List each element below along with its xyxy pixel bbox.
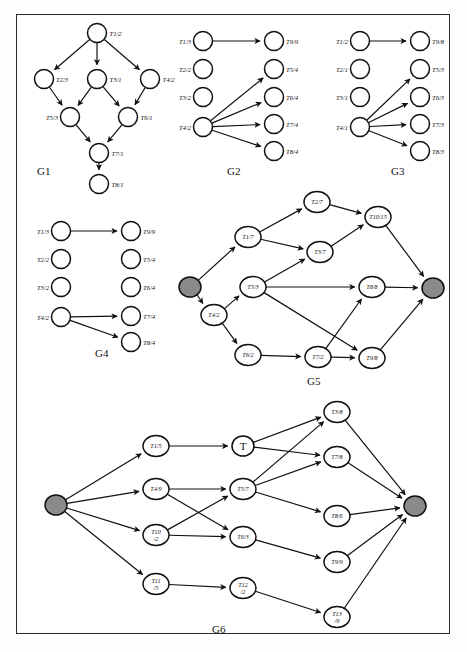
node-label: T7/3 [432,121,445,128]
node-label: T [240,440,247,452]
node-label: T8/8 [366,283,378,290]
graph-edge [350,508,400,515]
node-label: T7/8 [331,453,343,460]
terminal-node-g6 [45,495,67,515]
caption-g5: G5 [307,375,321,387]
node-label: T2/2 [37,256,50,263]
terminal-node-g6 [404,496,426,516]
node-label: T1/7 [242,233,254,240]
node-label: T1/3 [37,228,50,235]
graph-edge [65,512,143,575]
graph-edge [345,420,405,494]
graph-edge [256,540,321,558]
node-label: T6/4 [286,94,299,101]
graph-edge [264,259,304,282]
task-node-g4-T74 [122,307,141,326]
graph-edge [369,131,407,146]
node-label: T2/2 [179,66,192,73]
node-label: T3/8 [331,408,343,415]
graph-edge [67,491,139,503]
graph-edge [211,78,264,121]
node-label: T5/3 [46,114,59,121]
node-label: T6/2 [242,351,253,358]
graph-edge [386,226,424,277]
graph-edge [261,239,304,249]
node-label: T9/8 [366,354,378,361]
graph-edge [254,447,320,455]
node-label: T4/2 [163,76,176,83]
node-label: T5/7 [237,485,249,492]
task-node-g1-T61 [119,108,138,127]
node-label: T9/9 [286,38,299,45]
node-label: T3/7 [314,248,326,255]
graph-edge [169,535,226,536]
task-node-g1-T53 [61,108,80,127]
task-node-g4-T64 [122,278,141,297]
node-label: T1/5 [150,442,161,449]
node-label: T8/4 [143,339,156,346]
terminal-node-g5 [179,277,201,297]
node-label: T8/6 [331,512,343,519]
node-label: T6/4 [143,284,156,291]
node-label: T3/2 [179,94,192,101]
task-node-g4-T42 [52,308,71,327]
task-node-g3-T63 [411,88,430,107]
node-label: T4/2 [208,311,219,318]
node-label: T5/4 [143,256,156,263]
graph-edge [108,125,122,142]
caption-g2: G2 [227,165,240,177]
task-node-g1-T42 [141,70,160,89]
graph-edge [76,125,90,142]
graph-edge [370,125,406,127]
task-node-g2-T84 [265,142,284,161]
node-label: T5/4 [286,66,299,73]
task-node-g2-T74 [265,115,284,134]
graph-edge [331,225,363,246]
graph-edge [253,417,320,442]
node-label: T6/3 [237,533,248,540]
task-node-g4-T84 [122,333,141,352]
caption-g6: G6 [212,623,226,635]
task-node-g4-T99 [122,222,141,241]
graph-edge [264,293,357,351]
task-node-g3-T98 [411,32,430,51]
task-node-g2-T54 [265,60,284,79]
graph-edge [331,357,355,358]
graph-edge [330,205,362,214]
graph-edge [135,88,145,105]
graph-edge [78,87,91,105]
node-label: T7/1 [112,150,124,157]
node-label: T4/2 [179,124,192,131]
graph-edge [67,508,140,531]
node-label: T1/2 [336,38,349,45]
node-label: T9/9 [331,558,342,565]
graph-edge [385,287,418,288]
task-node-g3-T12 [351,32,370,51]
node-label: T3/1 [336,94,348,101]
node-label: T4/2 [37,314,50,321]
node-label: T2/3 [56,76,69,83]
task-node-g4-T32 [52,278,71,297]
node-label: T1/3 [179,38,192,45]
graph-edge [326,299,362,348]
node-label: T8/3 [432,148,445,155]
terminal-node-g5 [422,278,444,298]
caption-g4: G4 [95,347,109,359]
task-node-g3-T83 [411,142,430,161]
task-node-g1-T23 [35,70,54,89]
node-label: T6/1 [141,114,153,121]
node-label: T3/2 [37,284,50,291]
node-label: T7/4 [286,121,299,128]
node-labels-layer: T1/2T2/3T3/1T4/2T5/3T6/1T7/1T8/1T1/3T2/2… [37,30,445,624]
graph-edge [198,247,235,280]
task-node-g2-T22 [194,60,213,79]
graph-edge [381,299,423,350]
caption-g3: G3 [391,165,405,177]
node-label: T8/1 [112,181,124,188]
node-label: T1/2 [110,30,123,37]
node-label: T2/7 [311,198,323,205]
graph-edge [255,492,320,512]
graph-edge [212,130,261,146]
task-node-g1-T81 [90,175,109,194]
task-node-g1-T12 [88,24,107,43]
